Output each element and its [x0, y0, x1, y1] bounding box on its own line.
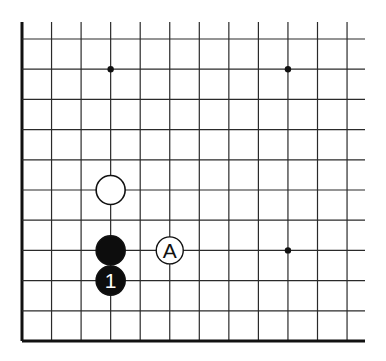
star-point-icon — [107, 66, 113, 72]
stones-layer: 1 — [96, 176, 125, 296]
black-stone: 1 — [96, 266, 125, 295]
stone-move-number: 1 — [105, 269, 117, 292]
marker-a: A — [156, 237, 183, 264]
board-grid — [22, 22, 365, 341]
white-stone-icon — [96, 176, 125, 205]
white-stone — [96, 176, 125, 205]
star-point-icon — [285, 247, 291, 253]
black-stone-icon — [96, 236, 125, 265]
go-board: 1 A — [0, 0, 386, 361]
markers-layer: A — [156, 237, 183, 264]
marker-letter: A — [163, 239, 177, 262]
star-point-icon — [285, 66, 291, 72]
black-stone — [96, 236, 125, 265]
